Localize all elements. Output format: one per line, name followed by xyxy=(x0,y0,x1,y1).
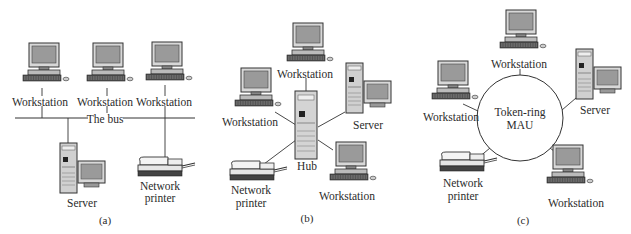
label-mau: MAU xyxy=(507,119,534,131)
label-printer: printer xyxy=(145,192,176,204)
label-workstation: Workstation xyxy=(548,197,604,209)
printer-icon xyxy=(440,152,497,171)
label-token-ring: Token-ring xyxy=(495,106,546,118)
server-icon xyxy=(346,63,391,113)
workstation-icon xyxy=(146,42,192,80)
label-network: Network xyxy=(443,177,483,189)
server-icon xyxy=(60,143,105,193)
server-icon xyxy=(576,49,621,99)
caption-a: (a) xyxy=(99,214,111,226)
panel-c-token-ring-topology xyxy=(432,10,621,183)
label-server: Server xyxy=(353,119,383,131)
workstation-icon xyxy=(432,61,478,99)
label-network: Network xyxy=(231,184,271,196)
workstation-icon xyxy=(235,68,281,106)
label-workstation: Workstation xyxy=(12,96,68,108)
label-network: Network xyxy=(140,180,180,192)
label-workstation: Workstation xyxy=(136,96,192,108)
workstation-icon xyxy=(87,43,133,81)
label-the-bus: The bus xyxy=(87,113,124,125)
label-printer: printer xyxy=(236,197,267,209)
label-workstation: Workstation xyxy=(491,58,547,70)
printer-icon xyxy=(138,157,195,176)
label-workstation: Workstation xyxy=(77,96,133,108)
panel-b-star-topology xyxy=(230,23,391,180)
printer-icon xyxy=(230,161,287,180)
label-server: Server xyxy=(67,197,97,209)
workstation-icon xyxy=(23,43,69,81)
label-workstation: Workstation xyxy=(277,68,333,80)
label-workstation: Workstation xyxy=(319,190,375,202)
caption-c: (c) xyxy=(517,214,529,226)
workstation-icon xyxy=(330,142,376,180)
workstation-icon xyxy=(500,10,546,48)
label-workstation: Workstation xyxy=(222,116,278,128)
label-workstation: Workstation xyxy=(423,111,479,123)
label-hub: Hub xyxy=(297,160,317,172)
label-printer: printer xyxy=(448,190,479,202)
hub-icon xyxy=(295,91,317,159)
workstation-icon xyxy=(547,145,593,183)
workstation-icon xyxy=(287,23,333,61)
label-server: Server xyxy=(580,104,610,116)
caption-b: (b) xyxy=(301,212,314,224)
